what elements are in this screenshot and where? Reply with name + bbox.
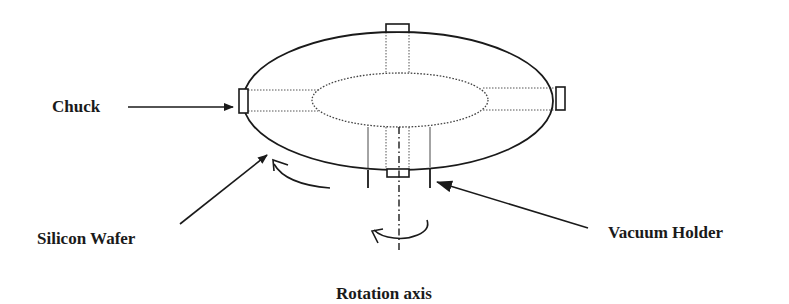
chuck-pin-right bbox=[556, 87, 565, 110]
chuck-pins bbox=[239, 24, 565, 177]
chuck-pin-left bbox=[239, 89, 248, 113]
silicon-wafer-pointer-arrow bbox=[180, 155, 267, 224]
wafer-rotation-arrow-icon bbox=[274, 164, 330, 188]
vacuum-holder-label: Vacuum Holder bbox=[608, 224, 723, 241]
wafer-spin-diagram bbox=[0, 0, 789, 304]
rotation-axis-label: Rotation axis bbox=[336, 285, 432, 302]
rotation-arrowhead-icon bbox=[372, 229, 383, 243]
vacuum-holder-pointer-arrow bbox=[437, 182, 588, 228]
chuck-label: Chuck bbox=[52, 98, 100, 115]
silicon-wafer-label: Silicon Wafer bbox=[37, 230, 135, 247]
chuck-pin-top bbox=[386, 24, 409, 32]
inner-dotted-ellipse bbox=[312, 73, 488, 127]
silicon-wafer-ellipse bbox=[243, 32, 553, 170]
chuck-pin-bottom bbox=[387, 169, 409, 177]
